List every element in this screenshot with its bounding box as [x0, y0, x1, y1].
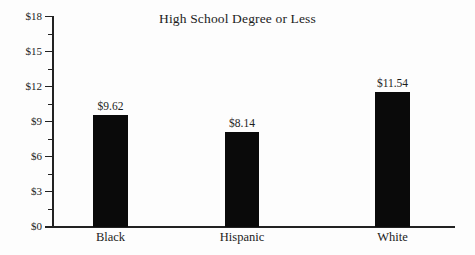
y-tick-minor: [48, 34, 54, 35]
y-tick-minor: [48, 209, 54, 210]
y-tick-major: [45, 156, 54, 157]
bar-hispanic[interactable]: [225, 132, 259, 227]
bar-value-hispanic: $8.14: [212, 117, 272, 129]
y-tick-label: $3: [0, 185, 42, 197]
y-tick-major: [45, 191, 54, 192]
y-tick-minor: [48, 69, 54, 70]
category-label-hispanic: Hispanic: [212, 230, 272, 245]
y-tick-label: $18: [0, 10, 42, 22]
bar-black[interactable]: [93, 115, 128, 227]
y-tick-major: [45, 86, 54, 87]
bar-value-white: $11.54: [363, 77, 423, 89]
y-tick-label: $0: [0, 220, 42, 232]
y-tick-major: [45, 121, 54, 122]
category-label-white: White: [363, 230, 423, 245]
chart-title: High School Degree or Less: [0, 11, 475, 27]
y-tick-minor: [48, 139, 54, 140]
y-tick-label: $9: [0, 115, 42, 127]
y-tick-label: $12: [0, 80, 42, 92]
category-label-black: Black: [81, 230, 141, 245]
y-tick-label: $15: [0, 45, 42, 57]
bar-white[interactable]: [375, 92, 410, 227]
bar-value-black: $9.62: [81, 100, 141, 112]
y-tick-minor: [48, 174, 54, 175]
bar-chart: High School Degree or Less $18 $15 $12 $…: [0, 0, 475, 255]
y-tick-major: [45, 16, 54, 17]
y-tick-major: [45, 226, 54, 227]
y-tick-label: $6: [0, 150, 42, 162]
y-tick-major: [45, 51, 54, 52]
y-tick-minor: [48, 104, 54, 105]
